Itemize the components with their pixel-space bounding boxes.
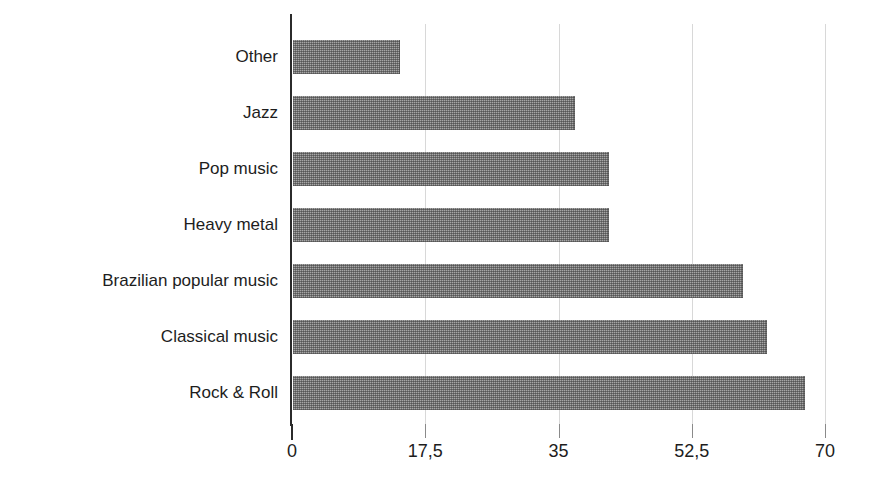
x-axis-tick [825,424,826,438]
category-label: Other [0,40,278,74]
category-label: Heavy metal [0,208,278,242]
value-axis-line [290,14,292,426]
bar-row [293,96,575,130]
x-tick-label: 0 [287,440,297,462]
bar-row [293,320,767,354]
category-label: Jazz [0,96,278,130]
category-label: Classical music [0,320,278,354]
bar-chart: OtherJazzPop musicHeavy metalBrazilian p… [0,0,878,496]
bar [293,264,743,298]
x-tick-label: 17,5 [408,440,443,462]
bar-row [293,208,609,242]
bar [293,208,609,242]
category-label: Rock & Roll [0,376,278,410]
x-axis-tick [425,424,426,438]
x-tick-label: 70 [815,440,835,462]
category-label: Brazilian popular music [0,264,278,298]
bar-row [293,376,805,410]
gridline [692,24,693,424]
gridline [825,24,826,424]
x-tick-label: 52,5 [674,440,709,462]
x-axis-tick [291,424,293,440]
bar [293,96,575,130]
bar [293,320,767,354]
x-tick-label: 35 [548,440,568,462]
x-axis-tick [692,424,693,438]
bar-row [293,40,400,74]
x-axis-tick [559,424,560,438]
bar-row [293,152,609,186]
bar [293,376,805,410]
bar [293,40,400,74]
category-label: Pop music [0,152,278,186]
bar-row [293,264,743,298]
bar [293,152,609,186]
